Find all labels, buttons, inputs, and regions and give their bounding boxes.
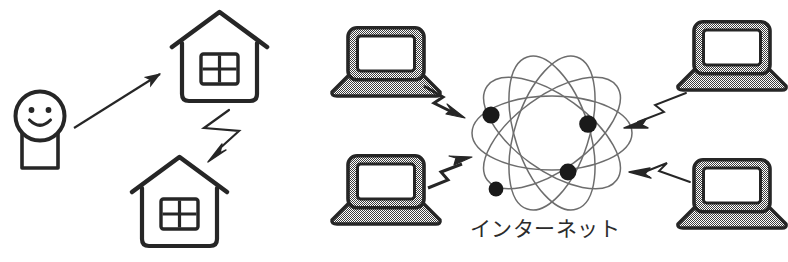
node-lower-right <box>560 164 577 181</box>
node-lower-left <box>489 182 504 197</box>
laptop-bottom-left <box>332 156 440 224</box>
person-head <box>16 92 65 141</box>
laptop-bottom-right <box>678 160 786 228</box>
node-upper-right <box>579 115 597 133</box>
network-diagram-illustration: インターネット <box>0 0 788 262</box>
internet-label: インターネット <box>470 217 621 241</box>
laptop-top-right <box>678 22 786 90</box>
node-upper-left <box>482 106 499 123</box>
diagram-canvas: インターネット <box>0 0 788 262</box>
person-figure <box>16 92 65 169</box>
laptop-top-left <box>332 28 440 96</box>
